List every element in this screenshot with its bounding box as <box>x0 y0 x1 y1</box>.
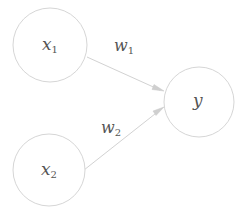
perceptron-diagram: w1 w2 x1 x2 y <box>0 0 246 213</box>
edge-line-w1 <box>87 57 160 90</box>
edge-label-w1: w1 <box>114 36 134 56</box>
arrow-head-icon <box>152 85 164 92</box>
node-label-y: y <box>192 90 203 110</box>
node-y: y <box>164 67 234 137</box>
edge-x1-to-y: w1 <box>87 36 164 91</box>
edge-label-w2: w2 <box>101 118 121 138</box>
node-x1: x1 <box>13 8 87 82</box>
edge-line-w2 <box>84 110 160 170</box>
edge-x2-to-y: w2 <box>84 107 164 170</box>
node-x2: x2 <box>13 134 85 206</box>
